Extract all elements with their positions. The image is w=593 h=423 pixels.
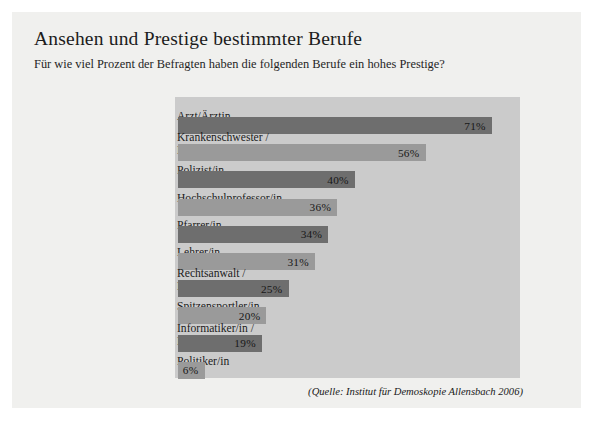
table-row: Pfarrer/in34% (12, 226, 581, 243)
bar-value-label: 40% (327, 174, 349, 186)
table-row: Rechtsanwalt / Rechtsanwältin25% (12, 280, 581, 297)
bar-value-label: 25% (261, 283, 283, 295)
bar: 6% (178, 362, 205, 379)
source-attribution: (Quelle: Institut für Demoskopie Allensb… (308, 386, 523, 397)
chart-card: Ansehen und Prestige bestimmter Berufe F… (12, 12, 581, 408)
bar: 19% (178, 335, 262, 352)
bar-value-label: 19% (234, 337, 256, 349)
bar: 36% (178, 199, 337, 216)
bar-track: 6% (178, 362, 518, 379)
bar: 25% (178, 280, 289, 297)
bar-value-label: 31% (287, 256, 309, 268)
table-row: Informatiker/in / Programmierer/in19% (12, 335, 581, 352)
bar-track: 36% (178, 199, 518, 216)
chart-subtitle: Für wie viel Prozent der Befragten haben… (34, 57, 554, 72)
bar-value-label: 71% (464, 120, 486, 132)
bar: 56% (178, 144, 426, 161)
bar-value-label: 36% (310, 201, 332, 213)
table-row: Polizist/in40% (12, 171, 581, 188)
bar-value-label: 56% (398, 147, 420, 159)
table-row: Politiker/in6% (12, 362, 581, 379)
bar-rows: Arzt/Ärztin71%Krankenschwester / Kranken… (12, 97, 581, 378)
chart-header: Ansehen und Prestige bestimmter Berufe F… (34, 28, 554, 72)
bar-value-label: 34% (301, 228, 323, 240)
bar-track: 56% (178, 144, 518, 161)
bar: 40% (178, 171, 355, 188)
table-row: Krankenschwester / Krankenpfleger56% (12, 144, 581, 161)
bar-track: 40% (178, 171, 518, 188)
bar: 34% (178, 226, 328, 243)
bar-value-label: 6% (183, 364, 199, 376)
page-title: Ansehen und Prestige bestimmter Berufe (34, 28, 554, 50)
bar-track: 25% (178, 280, 518, 297)
bar-value-label: 20% (239, 310, 261, 322)
table-row: Hochschulprofessor/in36% (12, 199, 581, 216)
bar-track: 19% (178, 335, 518, 352)
bar-track: 34% (178, 226, 518, 243)
